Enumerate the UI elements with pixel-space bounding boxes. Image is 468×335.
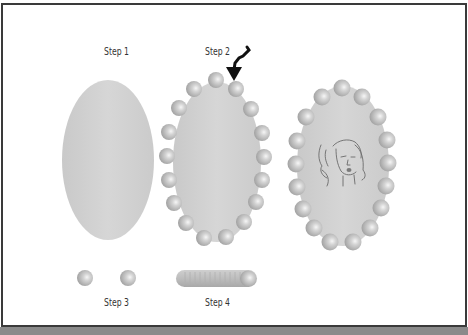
bead-frame-steps-diagram (0, 0, 468, 335)
step3-label: Step 3 (104, 296, 129, 309)
step1-oval (62, 80, 154, 240)
step3-beads (77, 270, 136, 286)
step4-bead-strand (176, 270, 257, 287)
step2-label: Step 2 (205, 45, 230, 58)
step4-label: Step 4 (205, 296, 230, 309)
step1-label: Step 1 (104, 45, 129, 58)
final-beaded-frame (288, 80, 397, 251)
step2-beaded-oval (159, 47, 272, 246)
